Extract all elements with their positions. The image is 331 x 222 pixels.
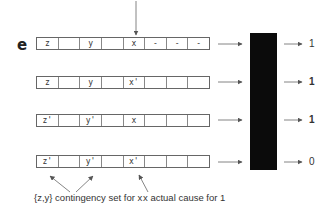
contingency-caption: {z,y} contingency set for x: [34, 192, 142, 203]
pointer-arrow-icon: [139, 175, 148, 192]
arrows-layer: [0, 0, 331, 222]
actual-cause-caption: x actual cause for 1: [143, 192, 225, 203]
output-value-2: 1: [309, 76, 315, 87]
output-value-3: 1: [309, 114, 315, 125]
output-value-4: 0: [309, 156, 315, 167]
output-value-1: 1: [309, 38, 315, 49]
pointer-arrow-icon: [76, 176, 93, 192]
pointer-arrow-icon: [50, 176, 70, 192]
